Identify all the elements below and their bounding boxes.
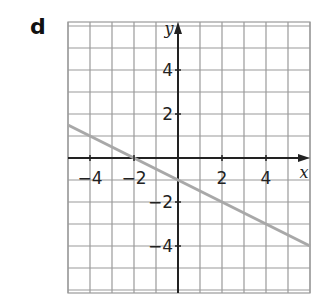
y-tick-label: 2: [162, 104, 173, 124]
y-axis-label: y: [163, 19, 174, 38]
x-tick-label: −4: [77, 168, 102, 188]
y-tick-label: −2: [148, 192, 173, 212]
graph-line: [68, 125, 310, 246]
x-axis-arrow-icon: [298, 154, 310, 162]
plotted-line: [68, 125, 310, 246]
x-tick-label: 4: [261, 168, 272, 188]
y-axis-arrow-icon: [174, 22, 182, 34]
x-tick-label: 2: [217, 168, 228, 188]
axes: [68, 22, 310, 293]
x-axis-label: x: [299, 163, 308, 182]
y-tick-label: 4: [162, 60, 173, 80]
x-tick-label: −2: [121, 168, 146, 188]
y-tick-label: −4: [148, 236, 173, 256]
coordinate-graph: −4−22442−2−4xy: [0, 0, 321, 304]
